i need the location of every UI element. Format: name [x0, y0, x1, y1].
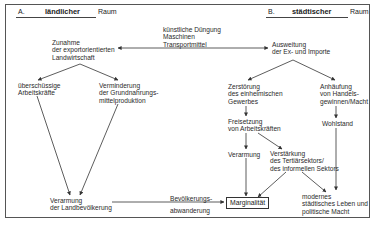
diagram-arrows: [0, 0, 377, 230]
